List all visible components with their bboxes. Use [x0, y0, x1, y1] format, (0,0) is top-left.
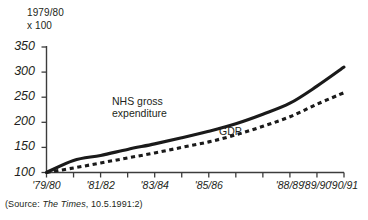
y-axis-tick-label: 300 [1, 64, 35, 78]
x-axis-tick-label: '79/80 [17, 179, 77, 191]
source-prefix: (Source: [5, 199, 42, 209]
source-note: (Source: The Times, 10.5.1991:2) [5, 199, 143, 209]
series-label-nhs-gross-expenditure: NHS gross expenditure [112, 96, 167, 119]
chart-figure: 1979/80 x 100 100150200250300350 '79/80'… [0, 0, 368, 220]
x-axis-ticks [47, 173, 345, 178]
series-line-gdp [47, 93, 345, 173]
x-axis-tick-label: '83/84 [125, 179, 185, 191]
series-line-nhs-gross-expenditure [47, 67, 345, 172]
x-axis-tick-label: '85/86 [179, 179, 239, 191]
y-axis-tick-label: 150 [1, 139, 35, 153]
y-axis-ticks [42, 47, 47, 173]
source-publication: The Times [42, 199, 85, 209]
x-axis-tick-label: '81/82 [71, 179, 131, 191]
y-axis-tick-label: 200 [1, 114, 35, 128]
y-axis-tick-label: 350 [1, 39, 35, 53]
y-axis-tick-label: 100 [1, 165, 35, 179]
series-label-gdp: GDP [219, 126, 242, 138]
y-axis-tick-label: 250 [1, 89, 35, 103]
x-axis-tick-label: '90/91 [314, 179, 368, 191]
source-suffix: , 10.5.1991:2) [86, 199, 143, 209]
